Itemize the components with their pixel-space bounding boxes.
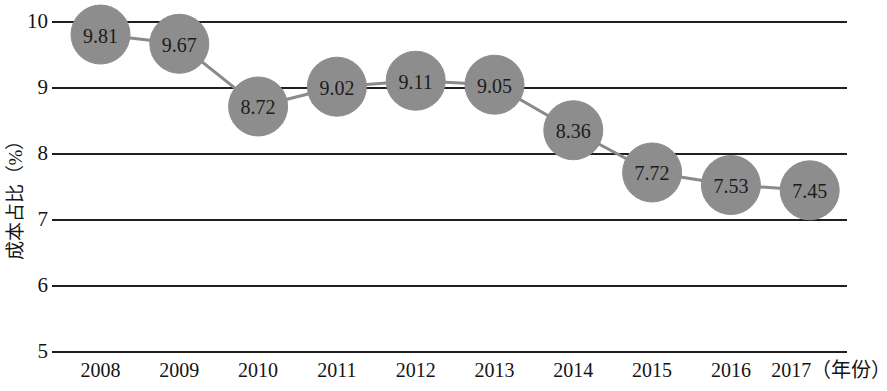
data-label-2015: 7.72 — [635, 162, 670, 184]
x-tick-2017: 2017（年份） — [771, 360, 887, 380]
x-tick-2014: 2014 — [553, 360, 593, 380]
data-label-2010: 8.72 — [241, 96, 276, 118]
data-label-2013: 9.05 — [477, 75, 512, 97]
data-label-2008: 9.81 — [83, 25, 118, 47]
x-tick-2010: 2010 — [238, 360, 278, 380]
x-tick-2009: 2009 — [159, 360, 199, 380]
chart-plot-area: 9.819.678.729.029.119.058.367.727.537.45 — [0, 0, 887, 391]
data-label-2009: 9.67 — [162, 34, 197, 56]
data-label-2017: 7.45 — [792, 180, 827, 202]
data-label-2014: 8.36 — [556, 120, 591, 142]
x-tick-2013: 2013 — [475, 360, 515, 380]
data-point-markers: 9.819.678.729.029.119.058.367.727.537.45 — [71, 5, 839, 220]
series-line-cost-ratio — [101, 35, 810, 191]
x-tick-2011: 2011 — [317, 360, 356, 380]
cost-ratio-line-chart: 成本占比（%） 1098765 9.819.678.729.029.119.05… — [0, 0, 887, 391]
x-tick-2015: 2015 — [632, 360, 672, 380]
data-label-2012: 9.11 — [399, 71, 433, 93]
x-tick-2008: 2008 — [81, 360, 121, 380]
x-tick-2012: 2012 — [396, 360, 436, 380]
data-label-2016: 7.53 — [713, 175, 748, 197]
data-label-2011: 9.02 — [319, 77, 354, 99]
x-tick-2016: 2016 — [711, 360, 751, 380]
